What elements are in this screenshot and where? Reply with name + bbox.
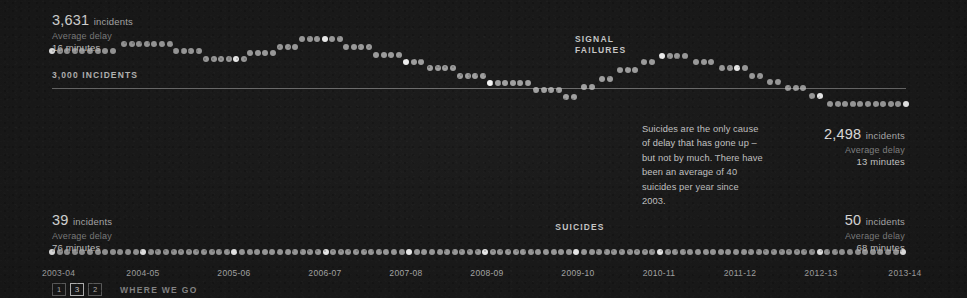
data-point (870, 249, 876, 255)
data-point (163, 249, 169, 255)
data-point (893, 249, 899, 255)
data-point (186, 249, 192, 255)
data-point (573, 249, 579, 255)
x-axis-tick: 2007-08 (389, 268, 422, 278)
x-axis-tick: 2013-14 (888, 268, 921, 278)
data-point (193, 249, 199, 255)
data-point (786, 249, 792, 255)
data-point (741, 249, 747, 255)
data-point (528, 249, 534, 255)
data-point (300, 249, 306, 255)
data-point (839, 249, 845, 255)
x-axis-tick: 2008-09 (470, 268, 503, 278)
data-point (285, 249, 291, 255)
data-point (490, 249, 496, 255)
data-point (581, 249, 587, 255)
data-point (231, 249, 237, 255)
data-point (649, 249, 655, 255)
data-point (125, 249, 131, 255)
data-point (855, 249, 861, 255)
data-point (619, 249, 625, 255)
data-point (155, 249, 161, 255)
data-point (376, 249, 382, 255)
data-point (79, 249, 85, 255)
data-point (171, 249, 177, 255)
data-point (353, 249, 359, 255)
data-point (763, 249, 769, 255)
data-point (383, 249, 389, 255)
data-point (361, 249, 367, 255)
data-point (209, 249, 215, 255)
data-point (627, 249, 633, 255)
page-button-2[interactable]: 2 (88, 283, 102, 296)
data-point (429, 249, 435, 255)
data-point (748, 249, 754, 255)
data-point (110, 249, 116, 255)
data-point (368, 249, 374, 255)
data-point (467, 249, 473, 255)
data-point (718, 249, 724, 255)
data-point (140, 249, 146, 255)
data-point (421, 249, 427, 255)
series-dots-suicides (0, 0, 967, 298)
data-point (87, 249, 93, 255)
data-point (216, 249, 222, 255)
data-point (604, 249, 610, 255)
footer-section-label: WHERE WE GO (120, 285, 198, 295)
data-point (657, 249, 663, 255)
data-point (49, 249, 55, 255)
data-point (459, 249, 465, 255)
data-point (611, 249, 617, 255)
data-point (801, 249, 807, 255)
data-point (900, 249, 906, 255)
x-axis-tick: 2011-12 (724, 268, 757, 278)
data-point (482, 249, 488, 255)
data-point (589, 249, 595, 255)
data-point (725, 249, 731, 255)
data-point (247, 249, 253, 255)
x-axis-tick: 2006-07 (308, 268, 341, 278)
data-point (117, 249, 123, 255)
data-point (315, 249, 321, 255)
data-point (497, 249, 503, 255)
data-point (307, 249, 313, 255)
page-button-1[interactable]: 1 (52, 283, 66, 296)
data-point (323, 249, 329, 255)
data-point (824, 249, 830, 255)
data-point (277, 249, 283, 255)
footer-nav: 1 3 2 WHERE WE GO (52, 283, 198, 296)
data-point (710, 249, 716, 255)
data-point (72, 249, 78, 255)
data-point (399, 249, 405, 255)
x-axis-tick: 2004-05 (126, 268, 159, 278)
data-point (543, 249, 549, 255)
data-point (437, 249, 443, 255)
data-point (680, 249, 686, 255)
data-point (535, 249, 541, 255)
data-point (102, 249, 108, 255)
data-point (133, 249, 139, 255)
data-point (406, 249, 412, 255)
data-point (95, 249, 101, 255)
data-point (148, 249, 154, 255)
data-point (254, 249, 260, 255)
data-point (596, 249, 602, 255)
x-axis: 2003-042004-052005-062006-072007-082008-… (0, 268, 967, 282)
data-point (809, 249, 815, 255)
data-point (847, 249, 853, 255)
page-button-3[interactable]: 3 (70, 283, 84, 296)
data-point (269, 249, 275, 255)
data-point (338, 249, 344, 255)
data-point (330, 249, 336, 255)
data-point (756, 249, 762, 255)
data-point (391, 249, 397, 255)
x-axis-tick: 2009-10 (561, 268, 594, 278)
data-point (642, 249, 648, 255)
data-point (178, 249, 184, 255)
data-point (877, 249, 883, 255)
data-point (444, 249, 450, 255)
data-point (224, 249, 230, 255)
data-point (832, 249, 838, 255)
data-point (566, 249, 572, 255)
data-point (703, 249, 709, 255)
